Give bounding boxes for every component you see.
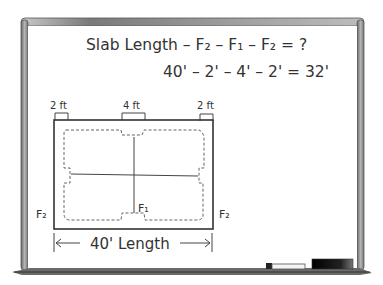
whiteboard-illustration: Slab Length – F₂ – F₁ – F₂ = ? 40' – 2' … — [0, 0, 383, 285]
marker-icon — [266, 263, 272, 269]
label-f2-left: F₂ — [36, 208, 47, 221]
equation-line-2: 40' – 2' – 4' – 2' = 32' — [163, 63, 329, 81]
label-f1: F₁ — [138, 202, 149, 215]
length-label: 40' Length — [90, 235, 170, 253]
equation-line-1: Slab Length – F₂ – F₁ – F₂ = ? — [86, 36, 307, 54]
eraser-icon — [312, 259, 353, 269]
dim-label-left: 2 ft — [50, 100, 67, 111]
marker-icon — [272, 264, 305, 269]
dim-label-right: 2 ft — [197, 100, 214, 111]
label-f2-right: F₂ — [219, 208, 230, 221]
whiteboard-frame — [21, 18, 364, 270]
dim-label-center: 4 ft — [123, 100, 140, 111]
